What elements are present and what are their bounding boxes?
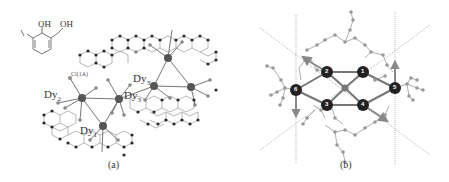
dy1-label: Dy1 [80, 124, 97, 139]
atom-number-3: 3 [325, 101, 328, 107]
central-atom [342, 85, 349, 92]
dy2-label: Dy2 [44, 88, 61, 103]
molecular-structure-a [0, 0, 225, 182]
panel-b: 1 2 3 4 5 6 (b) [225, 0, 449, 182]
atom-number-4: 4 [361, 101, 364, 107]
dy3-label: Dy3 [124, 89, 141, 104]
caption-a: (a) [108, 159, 119, 170]
oh-label-1: OH [38, 19, 51, 29]
atom-number-2: 2 [325, 68, 328, 74]
atom-number-1: 1 [361, 68, 364, 74]
ligand-structure [21, 26, 63, 54]
oh-label-2: OH [60, 19, 73, 29]
panel-a: OH OH Cl(1A) Dy2 Dy3 Dy3' Dy1 (a) [0, 0, 225, 182]
molecular-structure-b [225, 0, 449, 182]
atom-number-6: 6 [294, 86, 297, 92]
atom-number-5: 5 [393, 84, 396, 90]
dy3-prime-label: Dy3' [133, 72, 151, 87]
cl-atom-label: Cl(1A) [71, 71, 88, 77]
caption-b: (b) [340, 159, 352, 170]
